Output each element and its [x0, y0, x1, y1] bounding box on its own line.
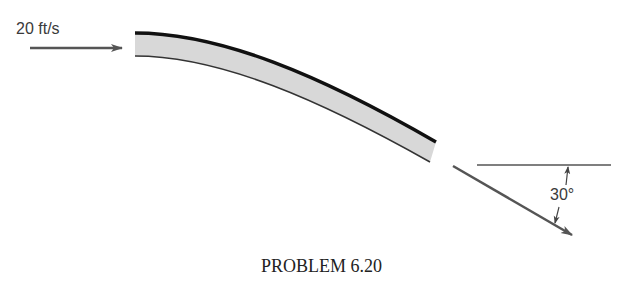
angle-arrow-up [566, 167, 568, 185]
curved-vane [135, 33, 436, 162]
diagram-canvas: 20 ft/s 30° PROBLEM 6.20 [0, 0, 643, 291]
inlet-velocity-label: 20 ft/s [16, 20, 60, 38]
outlet-angle-label: 30° [550, 186, 574, 204]
figure-caption: PROBLEM 6.20 [0, 256, 643, 277]
vane-diagram [0, 0, 643, 291]
angle-arrow-down [555, 207, 559, 223]
